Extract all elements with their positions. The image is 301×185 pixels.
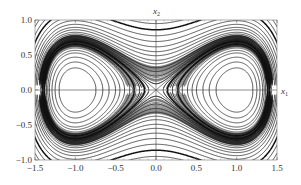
y-tick-label: −1.0	[16, 155, 33, 165]
x-tick-label: 1.0	[231, 163, 243, 173]
x-axis-label: x1	[280, 86, 288, 97]
y-tick-label: 1.0	[21, 15, 33, 25]
x-tick-label: 0.5	[191, 163, 203, 173]
x-tick-label: −1.0	[67, 163, 84, 173]
x-tick-label: 1.5	[271, 163, 283, 173]
y-axis-label-sub: 2	[157, 11, 160, 17]
phase-portrait-chart: −1.5−1.0−0.50.00.51.01.5−1.0−0.50.00.51.…	[0, 0, 301, 185]
x-tick-label: 0.0	[150, 163, 162, 173]
y-tick-label: 0.0	[21, 85, 33, 95]
y-tick-label: −0.5	[16, 120, 33, 130]
y-axis-label: x2	[152, 6, 160, 17]
y-tick-label: 0.5	[21, 50, 33, 60]
x-tick-label: −0.5	[108, 163, 125, 173]
x-axis-label-sub: 1	[285, 91, 288, 97]
